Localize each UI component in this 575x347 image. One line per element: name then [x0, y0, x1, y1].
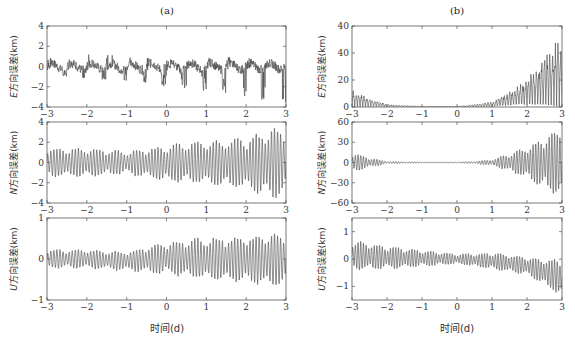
- x-tick-label: −2: [380, 205, 393, 215]
- y-axis-label: U方向误差(km): [316, 227, 327, 291]
- data-series: [47, 128, 286, 197]
- y-tick-label: 4: [38, 21, 44, 31]
- y-axis-label: N方向误差(km): [316, 131, 327, 195]
- y-tick-label: −30: [330, 178, 349, 188]
- y-tick-label: 60: [338, 117, 350, 127]
- y-tick-label: 40: [338, 48, 350, 58]
- x-tick-label: −2: [80, 205, 93, 215]
- y-tick-label: −4: [31, 102, 45, 112]
- y-axis-label: E方向误差(km): [8, 35, 19, 98]
- chart-a-N: −3−2−10123−4−2024N方向误差(km): [8, 117, 289, 215]
- x-tick-label: −1: [120, 302, 133, 312]
- x-axis-label-b: 时间(d): [427, 320, 487, 335]
- data-series: [47, 234, 286, 285]
- y-axis-label: U方向误差(km): [8, 227, 19, 291]
- y-tick-label: 4: [38, 117, 44, 127]
- y-tick-label: 0: [343, 254, 349, 264]
- x-tick-label: 1: [489, 205, 495, 215]
- x-tick-label: 0: [164, 205, 170, 215]
- x-tick-label: −1: [120, 109, 133, 119]
- x-tick-label: 2: [243, 109, 249, 119]
- data-series: [47, 55, 286, 103]
- x-tick-label: −2: [80, 302, 93, 312]
- x-tick-label: 3: [559, 205, 565, 215]
- y-tick-label: −60: [330, 198, 349, 208]
- x-tick-label: 1: [489, 109, 495, 119]
- y-tick-label: 1: [343, 227, 349, 237]
- y-tick-label: −2: [31, 82, 44, 92]
- x-tick-label: 0: [164, 109, 170, 119]
- x-tick-label: −2: [380, 109, 393, 119]
- y-tick-label: 0: [38, 158, 44, 168]
- x-tick-label: −1: [415, 109, 428, 119]
- x-tick-label: 0: [164, 302, 170, 312]
- x-tick-label: 1: [489, 302, 495, 312]
- x-tick-label: 1: [203, 109, 209, 119]
- x-tick-label: 3: [559, 302, 565, 312]
- y-tick-label: −2: [31, 178, 44, 188]
- x-tick-label: −3: [345, 302, 359, 312]
- x-tick-label: 0: [454, 205, 460, 215]
- y-tick-label: 0: [343, 158, 349, 168]
- x-tick-label: 2: [243, 205, 249, 215]
- x-tick-label: 1: [203, 205, 209, 215]
- x-tick-label: 3: [559, 109, 565, 119]
- chart-b-U: −3−2−10123−101U方向误差(km): [316, 218, 565, 312]
- y-axis-label: N方向误差(km): [8, 131, 19, 195]
- y-tick-label: 2: [38, 137, 44, 147]
- x-tick-label: 1: [203, 302, 209, 312]
- x-tick-label: 2: [243, 302, 249, 312]
- chart-a-E: −3−2−10123−4−2024E方向误差(km): [8, 21, 289, 119]
- figure-canvas: −3−2−10123−4−2024E方向误差(km)−3−2−101230204…: [0, 0, 575, 347]
- x-tick-label: −1: [415, 205, 428, 215]
- x-tick-label: −1: [415, 302, 428, 312]
- y-tick-label: −1: [336, 281, 349, 291]
- x-tick-label: 3: [283, 109, 289, 119]
- y-tick-label: 0: [38, 254, 44, 264]
- x-tick-label: 3: [283, 205, 289, 215]
- y-tick-label: 0: [343, 102, 349, 112]
- chart-b-N: −3−2−10123−60−3003060N方向误差(km): [316, 117, 565, 215]
- chart-a-U: −3−2−10123−101U方向误差(km): [8, 213, 289, 312]
- y-tick-label: 20: [338, 75, 350, 85]
- data-series: [352, 43, 562, 107]
- x-tick-label: 2: [524, 109, 530, 119]
- chart-b-E: −3−2−101230204040E方向误差(km): [316, 21, 565, 119]
- y-tick-label: 0: [38, 62, 44, 72]
- x-axis-label-a: 时间(d): [137, 320, 197, 335]
- y-tick-label: 2: [38, 41, 44, 51]
- x-tick-label: 2: [524, 205, 530, 215]
- y-tick-label: −1: [31, 295, 44, 305]
- y-tick-label: 30: [338, 137, 350, 147]
- x-tick-label: 3: [283, 302, 289, 312]
- data-series: [352, 133, 562, 193]
- x-tick-label: 0: [454, 302, 460, 312]
- data-series: [352, 241, 562, 292]
- x-tick-label: −1: [120, 205, 133, 215]
- x-tick-label: 0: [454, 109, 460, 119]
- y-tick-label: 1: [38, 213, 44, 223]
- y-axis-label: E方向误差(km): [316, 35, 327, 98]
- x-tick-label: −2: [80, 109, 93, 119]
- x-tick-label: −2: [380, 302, 393, 312]
- y-tick-label: 40: [338, 21, 350, 31]
- x-tick-label: 2: [524, 302, 530, 312]
- y-tick-label: −4: [31, 198, 45, 208]
